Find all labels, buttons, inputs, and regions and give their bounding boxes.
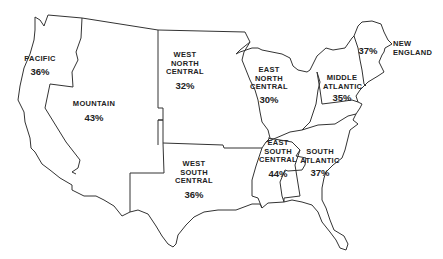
- region-value-south-atlantic: 37%: [299, 167, 341, 178]
- region-value-west-north-central: 32%: [165, 80, 205, 91]
- us-regions-map: PACIFIC 36% MOUNTAIN 43% WEST NORTH CENT…: [0, 0, 443, 259]
- region-label-mountain: MOUNTAIN: [70, 100, 118, 109]
- region-name-line: ATLANTIC: [300, 156, 339, 165]
- region-name-line: ATLANTIC: [323, 82, 362, 91]
- region-name: PACIFIC: [24, 54, 56, 63]
- region-name-line: ENGLAND: [393, 48, 432, 57]
- region-value-middle-atlantic: 35%: [323, 92, 361, 103]
- region-value-west-south-central: 36%: [174, 189, 214, 200]
- region-label-east-north-central: EAST NORTH CENTRAL: [249, 66, 289, 92]
- region-name-line: CENTRAL: [250, 82, 288, 91]
- region-label-south-atlantic: SOUTH ATLANTIC: [299, 148, 341, 165]
- border-wnc-wsc: [158, 120, 163, 145]
- region-label-east-south-central: EAST SOUTH CENTRAL: [258, 139, 298, 165]
- region-value-east-south-central: 44%: [258, 168, 298, 179]
- region-name-line: CENTRAL: [175, 176, 213, 185]
- region-value-mountain: 43%: [70, 112, 118, 123]
- region-name: MOUNTAIN: [73, 99, 115, 108]
- region-value-east-north-central: 30%: [249, 94, 289, 105]
- region-value-new-england: 37%: [357, 45, 379, 56]
- region-name-line: CENTRAL: [166, 67, 204, 76]
- region-value-pacific: 36%: [20, 66, 60, 77]
- region-label-new-england: NEW ENGLAND: [393, 40, 431, 57]
- region-label-west-south-central: WEST SOUTH CENTRAL: [174, 160, 214, 186]
- region-label-west-north-central: WEST NORTH CENTRAL: [165, 51, 205, 77]
- map-outline: [0, 0, 443, 259]
- region-label-middle-atlantic: MIDDLE ATLANTIC: [323, 74, 361, 91]
- region-name-line: CENTRAL: [259, 155, 297, 164]
- region-label-pacific: PACIFIC: [20, 55, 60, 64]
- border-mountain-wnc: [158, 30, 163, 120]
- us-outline: [18, 15, 392, 250]
- border-pacific-mountain: [45, 18, 82, 174]
